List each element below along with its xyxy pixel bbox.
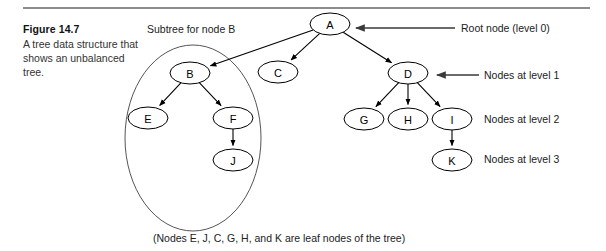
tree-node-b[interactable]: B xyxy=(170,62,210,84)
node-label-j: J xyxy=(230,155,236,167)
node-label-f: F xyxy=(230,113,237,125)
tree-node-g[interactable]: G xyxy=(344,108,384,130)
tree-edge-b-e xyxy=(160,83,181,106)
tree-diagram-svg: ABCDEFGHIJK xyxy=(0,0,606,251)
tree-edge-a-d xyxy=(343,32,391,62)
node-label-d: D xyxy=(404,68,412,80)
node-label-a: A xyxy=(326,19,334,31)
node-label-h: H xyxy=(404,114,412,126)
tree-node-a[interactable]: A xyxy=(310,13,350,35)
tree-edge-a-b xyxy=(210,30,313,66)
tree-edge-d-i xyxy=(417,83,440,107)
tree-node-e[interactable]: E xyxy=(128,107,168,129)
tree-node-k[interactable]: K xyxy=(432,149,472,171)
node-label-e: E xyxy=(144,113,151,125)
tree-node-d[interactable]: D xyxy=(388,62,428,84)
node-label-i: I xyxy=(450,114,453,126)
figure-container: Figure 14.7 A tree data structure that s… xyxy=(0,0,606,251)
node-label-k: K xyxy=(448,155,456,167)
tree-edge-d-g xyxy=(376,83,399,107)
tree-edge-a-c xyxy=(291,33,320,60)
node-label-b: B xyxy=(186,68,193,80)
tree-node-h[interactable]: H xyxy=(388,108,428,130)
tree-node-c[interactable]: C xyxy=(258,61,298,83)
node-label-g: G xyxy=(360,114,369,126)
tree-node-i[interactable]: I xyxy=(432,108,472,130)
tree-node-f[interactable]: F xyxy=(213,107,253,129)
tree-edge-b-f xyxy=(199,83,221,106)
node-label-c: C xyxy=(274,67,282,79)
tree-nodes-group: ABCDEFGHIJK xyxy=(128,13,472,171)
tree-node-j[interactable]: J xyxy=(213,149,253,171)
